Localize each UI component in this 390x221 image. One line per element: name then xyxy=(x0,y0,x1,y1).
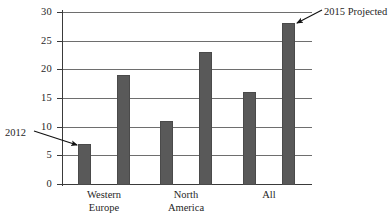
y-tick-mark-5 xyxy=(57,155,63,156)
category-label-western-europe-line2: Europe xyxy=(64,202,144,215)
category-label-north-america-line1: North xyxy=(146,189,226,202)
y-tick-mark-0 xyxy=(57,184,63,185)
gridline-15 xyxy=(62,98,312,99)
y-tick-label-30: 30 xyxy=(30,7,52,18)
bar-all-2015 xyxy=(282,23,295,185)
gridline-20 xyxy=(62,69,312,70)
annotation-2015-projected-label: 2015 Projected xyxy=(324,6,387,17)
gridline-25 xyxy=(62,41,312,42)
gridline-5 xyxy=(62,155,312,156)
category-label-all-line1: All xyxy=(229,189,309,202)
category-label-north-america-line2: America xyxy=(146,202,226,215)
category-label-all: All xyxy=(229,189,309,202)
bar-all-2012 xyxy=(243,92,256,185)
y-tick-label-20: 20 xyxy=(30,64,52,75)
y-tick-mark-15 xyxy=(57,98,63,99)
bar-chart-figure: 30 25 20 15 10 5 0 Western Europe North … xyxy=(0,0,390,221)
y-tick-mark-10 xyxy=(57,127,63,128)
bar-north-america-2015 xyxy=(199,52,212,185)
gridline-10 xyxy=(62,127,312,128)
bar-western-europe-2015 xyxy=(117,75,130,185)
y-tick-mark-30 xyxy=(57,12,63,13)
category-label-western-europe-line1: Western xyxy=(64,189,144,202)
bar-north-america-2012 xyxy=(160,121,173,185)
y-tick-mark-25 xyxy=(57,41,63,42)
category-label-north-america: North America xyxy=(146,189,226,214)
annotation-2012-label: 2012 xyxy=(5,127,26,138)
bar-western-europe-2012 xyxy=(78,144,91,185)
y-tick-label-15: 15 xyxy=(30,93,52,104)
category-label-western-europe: Western Europe xyxy=(64,189,144,214)
y-tick-label-10: 10 xyxy=(30,122,52,133)
y-tick-label-25: 25 xyxy=(30,36,52,47)
annotation-arrows xyxy=(0,0,390,221)
y-tick-label-5: 5 xyxy=(30,150,52,161)
x-axis-baseline xyxy=(62,184,312,185)
arrow-2012 xyxy=(34,131,77,145)
gridline-30 xyxy=(62,12,312,13)
y-tick-label-0: 0 xyxy=(30,179,52,190)
y-tick-mark-20 xyxy=(57,69,63,70)
